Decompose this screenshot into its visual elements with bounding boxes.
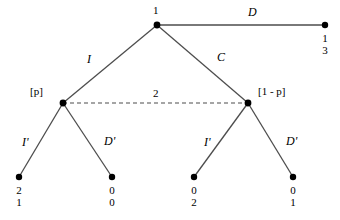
action-label-right-i-prime: I' xyxy=(204,136,211,148)
payoff-bottom: 1 xyxy=(12,196,26,208)
payoff-top: 2 xyxy=(12,184,26,196)
payoff-terminal-d: 1 3 xyxy=(318,32,332,57)
payoff-top: 1 xyxy=(318,32,332,44)
node-root xyxy=(154,22,161,29)
action-label-root-d: D xyxy=(248,6,257,18)
payoff-top: 0 xyxy=(187,184,201,196)
branch-root-c xyxy=(157,25,248,103)
payoff-top: 0 xyxy=(286,184,300,196)
payoff-terminal-ci: 0 2 xyxy=(187,184,201,209)
node-terminal-id xyxy=(109,174,115,180)
payoff-terminal-ii: 2 1 xyxy=(12,184,26,209)
node-label-root: 1 xyxy=(153,5,159,16)
node-right-information-set xyxy=(245,100,252,107)
action-label-root-i: I xyxy=(87,53,91,65)
node-terminal-cd xyxy=(290,174,296,180)
payoff-bottom: 2 xyxy=(187,196,201,208)
node-terminal-d xyxy=(322,22,328,28)
payoff-terminal-cd: 0 1 xyxy=(286,184,300,209)
action-label-left-i-prime: I' xyxy=(22,136,29,148)
node-terminal-ci xyxy=(191,174,197,180)
action-label-right-d-prime: D' xyxy=(286,135,297,147)
payoff-terminal-id: 0 0 xyxy=(105,184,119,209)
branch-root-i xyxy=(63,25,157,103)
payoff-top: 0 xyxy=(105,184,119,196)
action-label-root-c: C xyxy=(217,51,225,63)
payoff-bottom: 3 xyxy=(318,44,332,56)
information-set-label: 2 xyxy=(153,88,159,99)
payoff-bottom: 1 xyxy=(286,196,300,208)
branch-right-i-prime xyxy=(194,103,248,177)
action-label-left-d-prime: D' xyxy=(104,135,115,147)
node-terminal-ii xyxy=(16,174,22,180)
game-tree-figure: 1 [p] [1 - p] 2 D I C I' D' I' D' 1 3 2 … xyxy=(0,0,340,220)
node-label-left-probability: [p] xyxy=(30,86,43,97)
node-left-information-set xyxy=(60,100,67,107)
node-label-right-probability: [1 - p] xyxy=(258,86,286,97)
payoff-bottom: 0 xyxy=(105,196,119,208)
